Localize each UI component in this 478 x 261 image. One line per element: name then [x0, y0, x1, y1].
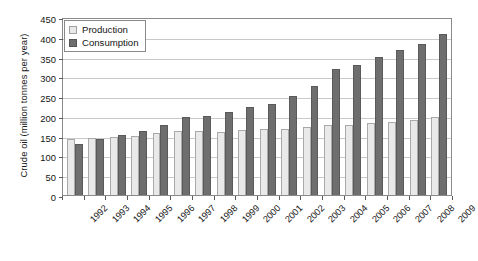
bar-consumption — [439, 34, 447, 195]
legend-label-consumption: Consumption — [82, 37, 139, 48]
x-tick — [257, 196, 258, 200]
bar-production — [110, 137, 118, 195]
y-axis-title: Crude oil (million tonnes per year) — [18, 11, 29, 201]
legend-item-consumption: Consumption — [69, 37, 139, 48]
y-tick-label: 50 — [46, 172, 56, 183]
bar-production — [88, 138, 96, 195]
bar-production — [153, 133, 161, 195]
bar-consumption — [396, 50, 404, 195]
x-tick-label: 2006 — [391, 203, 413, 225]
x-tick-label: 1995 — [153, 203, 175, 225]
legend-label-production: Production — [82, 24, 128, 35]
bar-group — [321, 19, 342, 195]
x-tick-label: 2008 — [435, 203, 457, 225]
x-tick-label: 1999 — [240, 203, 262, 225]
x-tick — [365, 196, 366, 200]
bar-group — [257, 19, 278, 195]
x-tick-label: 2009 — [456, 203, 478, 225]
x-tick-label: 2005 — [370, 203, 392, 225]
x-tick — [127, 196, 128, 200]
bar-consumption — [96, 139, 104, 195]
bar-consumption — [75, 144, 83, 195]
bar-consumption — [268, 104, 276, 195]
x-tick-label: 1998 — [218, 203, 240, 225]
x-tick — [409, 196, 410, 200]
x-tick — [192, 196, 193, 200]
bar-consumption — [118, 135, 126, 195]
chart-legend: Production Consumption — [64, 20, 146, 52]
x-tick-label: 1993 — [110, 203, 132, 225]
bar-consumption — [160, 125, 168, 195]
bar-group — [428, 19, 449, 195]
x-tick-label: 2000 — [261, 203, 283, 225]
x-tick — [170, 196, 171, 200]
x-tick — [214, 196, 215, 200]
bar-production — [260, 129, 268, 195]
bar-consumption — [375, 57, 383, 195]
bar-production — [367, 123, 375, 195]
legend-swatch-production-icon — [69, 26, 77, 34]
x-axis-ticks — [62, 196, 452, 202]
x-tick — [430, 196, 431, 200]
bar-group — [193, 19, 214, 195]
x-tick — [322, 196, 323, 200]
bar-group — [300, 19, 321, 195]
bar-production — [281, 129, 289, 195]
bar-group — [236, 19, 257, 195]
y-tick-label: 300 — [40, 73, 56, 84]
x-tick-label: 2002 — [305, 203, 327, 225]
x-tick-label: 2004 — [348, 203, 370, 225]
x-tick-label: 2001 — [283, 203, 305, 225]
bar-group — [214, 19, 235, 195]
bar-group — [386, 19, 407, 195]
bar-consumption — [289, 96, 297, 195]
bar-production — [345, 125, 353, 195]
x-tick-label: 2003 — [326, 203, 348, 225]
x-tick — [279, 196, 280, 200]
x-tick — [84, 196, 85, 200]
bar-consumption — [246, 107, 254, 195]
bar-group — [150, 19, 171, 195]
legend-swatch-consumption-icon — [69, 39, 77, 47]
x-tick — [62, 196, 63, 200]
bar-group — [171, 19, 192, 195]
bar-group — [407, 19, 428, 195]
y-tick-label: 150 — [40, 132, 56, 143]
x-tick-label: 1996 — [175, 203, 197, 225]
bar-consumption — [182, 117, 190, 195]
x-tick — [387, 196, 388, 200]
x-tick — [149, 196, 150, 200]
legend-item-production: Production — [69, 24, 139, 35]
bar-production — [131, 136, 139, 195]
bar-consumption — [311, 86, 319, 195]
y-tick-label: 400 — [40, 33, 56, 44]
bar-production — [410, 120, 418, 195]
bar-production — [174, 131, 182, 195]
bar-consumption — [225, 112, 233, 195]
x-tick — [235, 196, 236, 200]
bar-consumption — [418, 44, 426, 195]
bar-consumption — [353, 65, 361, 195]
x-tick-label: 1994 — [131, 203, 153, 225]
bar-consumption — [203, 116, 211, 195]
bar-production — [303, 127, 311, 195]
bar-group — [343, 19, 364, 195]
bar-group — [278, 19, 299, 195]
bar-production — [238, 130, 246, 195]
bar-production — [217, 132, 225, 195]
y-tick-label: 100 — [40, 152, 56, 163]
x-tick — [300, 196, 301, 200]
y-tick-label: 200 — [40, 112, 56, 123]
bar-production — [67, 139, 75, 195]
x-tick-label: 1992 — [88, 203, 110, 225]
bar-production — [195, 131, 203, 195]
x-tick — [344, 196, 345, 200]
bar-consumption — [332, 69, 340, 195]
y-tick-label: 250 — [40, 93, 56, 104]
x-tick-label: 1997 — [196, 203, 218, 225]
x-tick — [452, 196, 453, 200]
y-tick-label: 450 — [40, 14, 56, 25]
bar-group — [364, 19, 385, 195]
bar-consumption — [139, 131, 147, 195]
y-tick-label: 0 — [51, 192, 56, 203]
